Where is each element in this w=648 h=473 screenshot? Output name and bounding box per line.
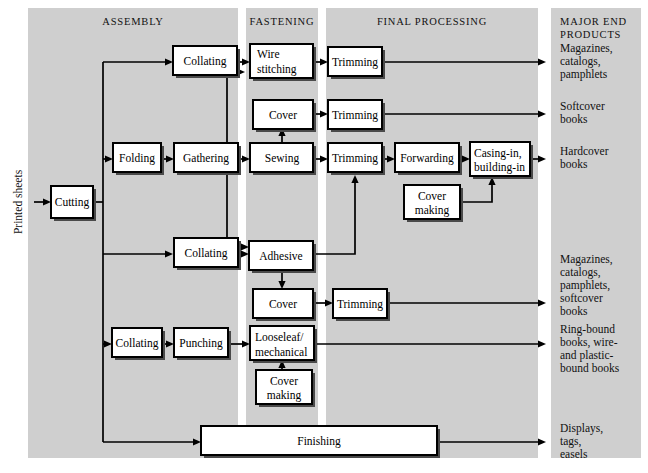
ep-4-line-2: catalogs, xyxy=(560,266,601,279)
node-collating-3[interactable]: Collating xyxy=(112,328,165,360)
node-cover-2-label: Cover xyxy=(269,298,297,310)
ep-4-line-3: pamphlets, xyxy=(560,279,610,292)
node-punching-label: Punching xyxy=(179,337,223,350)
node-folding[interactable]: Folding xyxy=(113,143,164,175)
ep-1-line-2: catalogs, xyxy=(560,55,601,68)
node-folding-label: Folding xyxy=(119,152,155,165)
node-collating-1[interactable]: Collating xyxy=(173,46,240,78)
node-trimming-2-label: Trimming xyxy=(332,109,378,122)
node-trimming-3[interactable]: Trimming xyxy=(328,143,385,175)
node-casing-in-label-line1: Casing-in, xyxy=(474,147,522,160)
node-cutting[interactable]: Cutting xyxy=(51,186,96,221)
header-assembly: ASSEMBLY xyxy=(102,16,163,27)
node-collating-3-label: Collating xyxy=(116,337,159,350)
node-wire-stitching-label-line2: stitching xyxy=(257,63,297,76)
header-fastening: FASTENING xyxy=(250,16,315,27)
node-punching[interactable]: Punching xyxy=(174,328,231,360)
node-looseleaf-label-line2: mechanical xyxy=(255,346,307,358)
ep-6-line-2: tags, xyxy=(560,435,582,448)
node-sewing[interactable]: Sewing xyxy=(250,143,316,175)
node-cutting-label: Cutting xyxy=(55,196,90,209)
node-trimming-2[interactable]: Trimming xyxy=(328,100,385,132)
node-wire-stitching-label-line1: Wire xyxy=(257,48,280,60)
node-collating-2[interactable]: Collating xyxy=(174,238,241,270)
node-casing-in-label-line2: building-in xyxy=(474,161,525,174)
ep-3-line-1: Hardcover xyxy=(560,145,609,157)
ep-5-line-2: books, wire- xyxy=(560,336,618,349)
node-casing-in[interactable]: Casing-in, building-in xyxy=(470,142,533,179)
ep-3-line-2: books xyxy=(560,158,588,170)
node-cover-making-2-label-line1: Cover xyxy=(270,375,298,387)
node-cover-making-1[interactable]: Cover making xyxy=(404,185,463,222)
header-major-end-products-line2: PRODUCTS xyxy=(560,29,621,40)
node-cover-making-2-label-line2: making xyxy=(267,389,302,402)
node-wire-stitching[interactable]: Wire stitching xyxy=(250,44,316,81)
ep-1-line-1: Magazines, xyxy=(560,42,613,55)
ep-4-line-1: Magazines, xyxy=(560,253,613,266)
header-major-end-products-line1: MAJOR END xyxy=(560,16,627,27)
node-trimming-1-label: Trimming xyxy=(332,56,378,69)
ep-6-line-3: easels xyxy=(560,448,588,460)
ep-5-line-3: and plastic- xyxy=(560,349,613,362)
node-forwarding-label: Forwarding xyxy=(400,152,454,165)
node-trimming-4-label: Trimming xyxy=(337,298,383,311)
ep-5-line-1: Ring-bound xyxy=(560,323,615,336)
ep-2-line-2: books xyxy=(560,113,588,125)
node-adhesive[interactable]: Adhesive xyxy=(249,241,316,273)
node-cover-making-1-label-line1: Cover xyxy=(418,190,446,202)
ep-4-line-4: softcover xyxy=(560,292,603,304)
node-trimming-3-label: Trimming xyxy=(332,152,378,165)
node-finishing[interactable]: Finishing xyxy=(201,426,440,458)
node-cover-2[interactable]: Cover xyxy=(253,289,316,321)
node-forwarding[interactable]: Forwarding xyxy=(395,143,462,175)
node-looseleaf-mechanical[interactable]: Looseleaf/ mechanical xyxy=(250,326,317,363)
ep-2-line-1: Softcover xyxy=(560,100,605,112)
node-trimming-4[interactable]: Trimming xyxy=(333,289,390,321)
node-adhesive-label: Adhesive xyxy=(259,250,302,262)
flowchart-canvas: ASSEMBLY FASTENING FINAL PROCESSING MAJO… xyxy=(0,0,648,473)
node-collating-1-label: Collating xyxy=(184,55,227,68)
node-finishing-label: Finishing xyxy=(297,435,341,448)
node-gathering-label: Gathering xyxy=(183,152,229,165)
node-sewing-label: Sewing xyxy=(265,152,300,165)
ep-6-line-1: Displays, xyxy=(560,422,603,435)
node-cover-making-2[interactable]: Cover making xyxy=(256,370,315,407)
ep-4-line-5: books xyxy=(560,305,588,317)
node-looseleaf-label-line1: Looseleaf/ xyxy=(255,331,304,343)
flowchart-figure: ASSEMBLY FASTENING FINAL PROCESSING MAJO… xyxy=(0,0,648,473)
input-label-printed-sheets: Printed sheets xyxy=(12,169,24,234)
node-cover-1[interactable]: Cover xyxy=(253,100,316,132)
end-product-5: Ring-bound books, wire- and plastic- bou… xyxy=(560,323,620,374)
node-cover-making-1-label-line2: making xyxy=(415,204,450,217)
node-gathering[interactable]: Gathering xyxy=(174,143,241,175)
node-trimming-1[interactable]: Trimming xyxy=(328,47,385,79)
node-collating-2-label: Collating xyxy=(185,247,228,260)
ep-1-line-3: pamphlets xyxy=(560,68,608,81)
ep-5-line-4: bound books xyxy=(560,362,620,374)
header-final-processing: FINAL PROCESSING xyxy=(377,16,487,27)
node-cover-1-label: Cover xyxy=(269,109,297,121)
